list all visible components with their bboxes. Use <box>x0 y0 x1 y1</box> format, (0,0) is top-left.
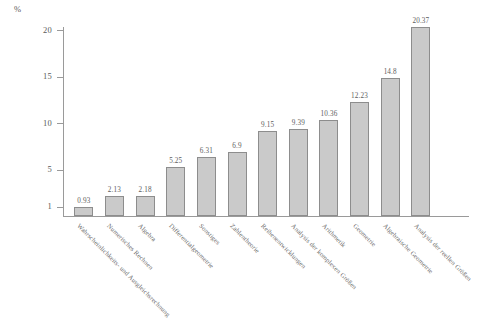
bar[interactable]: 9.15 <box>258 131 277 216</box>
bar-value-label: 14.8 <box>384 68 397 76</box>
bar-value-label: 0.93 <box>77 197 90 205</box>
y-axis-tick-label: 15 <box>24 72 52 81</box>
y-axis-tick-label-wrap: 20 <box>18 26 52 35</box>
x-axis-line <box>63 216 469 217</box>
bar-group: 6.31 <box>191 27 222 216</box>
bar[interactable]: 10.36 <box>319 120 338 216</box>
bar[interactable]: 2.18 <box>136 196 155 216</box>
y-axis-tick-label-wrap: 10 <box>18 119 52 128</box>
bar-group: 2.18 <box>130 27 161 216</box>
bar-group: 6.9 <box>222 27 253 216</box>
y-axis-tick-label-wrap: 1 <box>18 202 52 211</box>
plot-area: 0.932.132.185.256.316.99.159.3910.3612.2… <box>63 27 469 216</box>
x-axis-category-label: Analysis der reellen Größen <box>413 222 474 283</box>
y-axis-tick-label: 20 <box>24 26 52 35</box>
bar[interactable]: 9.39 <box>289 129 308 216</box>
y-axis-unit-label: % <box>14 5 21 14</box>
y-axis-tick-label: 5 <box>24 165 52 174</box>
bar-value-label: 6.9 <box>232 142 241 150</box>
bar[interactable]: 6.31 <box>197 157 216 216</box>
x-axis-category-label: Geometrie <box>351 222 377 248</box>
x-axis-category-label: Algebraische Geometrie <box>382 222 435 275</box>
bar-value-label: 9.39 <box>292 119 305 127</box>
bar-group: 20.37 <box>406 27 437 216</box>
bar[interactable]: 2.13 <box>105 196 124 216</box>
bar-value-label: 12.23 <box>351 92 368 100</box>
bar-group: 2.13 <box>99 27 130 216</box>
bar-value-label: 20.37 <box>412 17 429 25</box>
y-axis-tick-label: 1 <box>24 202 52 211</box>
bar-value-label: 5.25 <box>169 157 182 165</box>
y-axis-tick-label-wrap: 15 <box>18 72 52 81</box>
bar-value-label: 6.31 <box>200 147 213 155</box>
bar-group: 12.23 <box>344 27 375 216</box>
bar-group: 9.15 <box>252 27 283 216</box>
bar[interactable]: 20.37 <box>411 27 430 216</box>
x-axis-category-label: Zahlentheorie <box>229 222 262 255</box>
y-axis-tick-label-wrap: 5 <box>18 165 52 174</box>
bar-chart: % 20151051 0.932.132.185.256.316.99.159.… <box>0 0 481 328</box>
bar-group: 9.39 <box>283 27 314 216</box>
x-axis-category-label: Arithmetik <box>321 222 348 249</box>
x-axis-category-label: Sonstiges <box>198 222 222 246</box>
bar-value-label: 2.13 <box>108 186 121 194</box>
bar-value-label: 2.18 <box>139 186 152 194</box>
bar[interactable]: 0.93 <box>74 207 93 216</box>
bar-group: 10.36 <box>314 27 345 216</box>
bar-group: 5.25 <box>160 27 191 216</box>
bar[interactable]: 14.8 <box>381 78 400 216</box>
bar[interactable]: 6.9 <box>228 152 247 216</box>
bar-value-label: 10.36 <box>320 110 337 118</box>
bar-group: 14.8 <box>375 27 406 216</box>
bar-group: 0.93 <box>69 27 100 216</box>
y-axis-tick-label: 10 <box>24 119 52 128</box>
bar-value-label: 9.15 <box>261 121 274 129</box>
bar[interactable]: 12.23 <box>350 102 369 216</box>
x-axis-category-label: Algebra <box>137 222 158 243</box>
bar[interactable]: 5.25 <box>166 167 185 216</box>
